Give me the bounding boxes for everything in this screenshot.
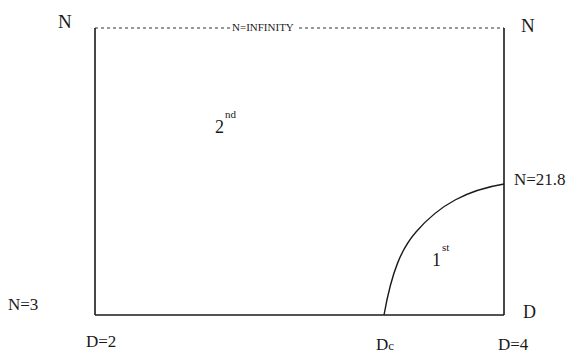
axis-label-n-right: N bbox=[521, 16, 535, 35]
d-max-label: D=4 bbox=[498, 336, 528, 353]
n-critical-label: N=21.8 bbox=[514, 171, 566, 188]
axis-label-n-left: N bbox=[58, 12, 72, 31]
region-first-order: 1st bbox=[432, 250, 449, 269]
n-min-label: N=3 bbox=[8, 296, 38, 313]
d-min-label: D=2 bbox=[86, 333, 116, 350]
region-number: 2 bbox=[215, 117, 224, 137]
d-critical-label: Dc bbox=[376, 336, 394, 353]
n-infinity-label: N=INFINITY bbox=[230, 22, 296, 33]
region-second-order: 2nd bbox=[215, 117, 236, 136]
axis-label-d: D bbox=[523, 303, 536, 321]
region-suffix: nd bbox=[225, 108, 236, 120]
region-number: 1 bbox=[432, 250, 441, 270]
phase-diagram-canvas bbox=[0, 0, 586, 357]
region-suffix: st bbox=[442, 241, 449, 253]
